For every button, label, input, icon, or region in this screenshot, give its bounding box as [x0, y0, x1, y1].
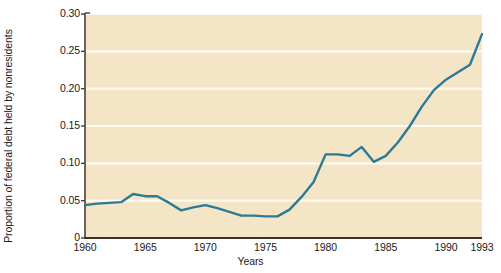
x-tick-label: 1980	[306, 241, 346, 253]
x-tick-label: 1985	[366, 241, 406, 253]
x-tick-label: 1993	[462, 241, 501, 253]
y-tick-label: 0.05	[36, 194, 80, 206]
x-tick-label: 1965	[125, 241, 165, 253]
y-axis-tick-labels: 00.050.100.150.200.250.30	[34, 0, 80, 250]
y-tick-label: 0.20	[36, 82, 80, 94]
chart-figure: Proportion of federal debt held by nonre…	[0, 0, 501, 273]
x-tick-label: 1960	[65, 241, 105, 253]
y-tick-label: 0.25	[36, 44, 80, 56]
x-tick-label: 1970	[185, 241, 225, 253]
x-tick-label: 1975	[245, 241, 285, 253]
y-tick-label: 0.10	[36, 156, 80, 168]
y-tick-label: 0.30	[36, 7, 80, 19]
x-axis-label: Years	[0, 255, 501, 267]
x-tick-label: 1990	[426, 241, 466, 253]
y-axis-label: Proportion of federal debt held by nonre…	[2, 10, 16, 262]
y-tick-label: 0.15	[36, 119, 80, 131]
